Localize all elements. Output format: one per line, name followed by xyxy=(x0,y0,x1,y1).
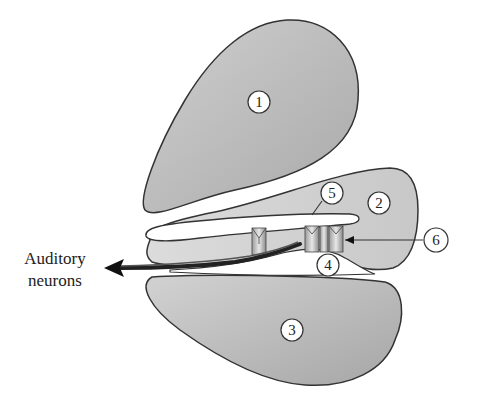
label-2: 2 xyxy=(368,192,390,214)
svg-text:5: 5 xyxy=(328,185,336,201)
hair-cell-outer-2 xyxy=(320,226,328,252)
hair-cell-inner xyxy=(252,228,266,255)
svg-text:1: 1 xyxy=(255,94,263,110)
hair-cell-outer-3 xyxy=(329,226,343,252)
auditory-neurons-label-line2: neurons xyxy=(28,271,82,290)
label-1: 1 xyxy=(248,91,270,113)
auditory-neurons-label-line1: Auditory xyxy=(24,249,86,268)
svg-text:3: 3 xyxy=(288,322,296,338)
cochlea-diagram: 1 2 3 4 5 6 Auditory neurons xyxy=(0,0,478,408)
label-5: 5 xyxy=(321,182,343,204)
svg-text:2: 2 xyxy=(375,195,383,211)
region-3-scala-tympani xyxy=(146,275,401,385)
svg-text:4: 4 xyxy=(324,257,332,273)
label-6: 6 xyxy=(424,228,448,252)
label-3: 3 xyxy=(281,319,303,341)
svg-text:6: 6 xyxy=(432,232,440,248)
hair-cell-outer-1 xyxy=(305,226,319,252)
label-4: 4 xyxy=(317,254,339,276)
